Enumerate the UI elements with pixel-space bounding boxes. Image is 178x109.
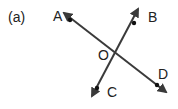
point-a-dot [68, 18, 72, 22]
part-label: (a) [8, 10, 25, 24]
point-b-dot [132, 21, 136, 25]
point-o-label: O [98, 48, 109, 62]
point-a-label: A [53, 9, 62, 23]
point-c-dot [95, 86, 99, 90]
point-d-label: D [158, 67, 168, 81]
point-b-label: B [148, 10, 157, 24]
intersecting-lines-diagram: (a) A B C D O [0, 0, 178, 109]
point-c-label: C [107, 85, 117, 99]
point-d-dot [155, 83, 159, 87]
